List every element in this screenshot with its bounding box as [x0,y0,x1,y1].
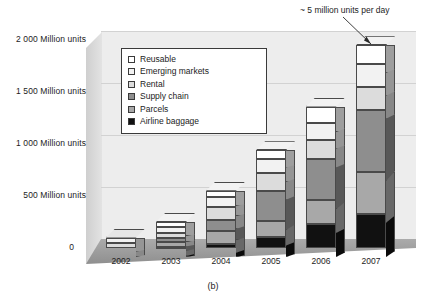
y-axis-tick-0: 0 [0,242,74,252]
legend-item-emerging-markets[interactable]: Emerging markets [128,66,260,79]
figure-caption: (b) [0,281,426,291]
bar-segment-2003-airline-baggage[interactable] [156,247,186,249]
bar-segment-2002-rental[interactable] [106,243,136,248]
bar-segment-2006-reusable[interactable] [306,107,336,124]
bar-segment-2006-rental[interactable] [306,140,336,159]
bar-segment-2003-emerging-markets[interactable] [156,227,186,233]
bar-segment-2006-airline-baggage[interactable] [306,224,336,248]
bar-segment-side-2007-5 [386,45,395,73]
bar-segment-2007-supply-chain[interactable] [356,110,386,172]
bar-segment-side-2005-5 [286,150,295,167]
bar-segment-side-2002-4 [136,238,145,252]
bar-2002[interactable] [106,0,145,299]
bar-top-face-2003 [156,213,195,222]
legend-item-label: Airline baggage [140,117,199,126]
legend-item-supply-chain[interactable]: Supply chain [128,91,260,104]
y-axis-tick-1000: 1 000 Million units [0,138,86,148]
bar-top-face-2002 [106,229,145,238]
legend-item-rental[interactable]: Rental [128,78,260,91]
bar-segment-2002-emerging-markets[interactable] [106,238,136,243]
bar-segment-2005-parcels[interactable] [256,221,286,237]
legend-item-airline-baggage[interactable]: Airline baggage [128,116,260,129]
bar-2004[interactable] [206,0,245,299]
bar-segment-2004-emerging-markets[interactable] [206,197,236,207]
annotation-label: ~ 5 million units per day [300,5,390,15]
bar-segment-2005-supply-chain[interactable] [256,191,286,221]
legend-item-parcels[interactable]: Parcels [128,103,260,116]
legend-item-label: Emerging markets [140,67,209,76]
x-axis-tick-2003: 2003 [147,256,195,266]
bar-segment-2006-parcels[interactable] [306,200,336,224]
x-axis-tick-2006: 2006 [297,256,345,266]
bar-top-face-2004 [206,182,245,191]
x-axis-tick-2007: 2007 [347,256,395,266]
bar-2005[interactable] [256,0,295,299]
y-axis-tick-500: 500 Million units [0,190,86,200]
bar-top-face-2005 [256,141,295,150]
x-axis-tick-2002: 2002 [97,256,145,266]
bar-top-face-2007 [356,36,395,45]
plot-left-wall [86,32,102,264]
legend-swatch-icon [128,106,135,113]
stacked-bar-chart: 2 000 Million units1 500 Million units1 … [0,0,426,299]
legend-swatch-icon [128,118,135,125]
bar-segment-side-2007-2 [386,110,395,181]
bar-segment-2004-airline-baggage[interactable] [206,244,236,248]
x-axis-tick-2005: 2005 [247,256,295,266]
bar-segment-2004-parcels[interactable] [206,231,236,243]
legend-swatch-icon [128,81,135,88]
bar-segment-side-2007-1 [386,172,395,223]
x-axis-tick-2004: 2004 [197,256,245,266]
bar-segment-2003-parcels[interactable] [156,242,186,247]
legend: ReusableEmerging marketsRentalSupply cha… [121,48,267,134]
bar-segment-2007-emerging-markets[interactable] [356,64,386,87]
legend-swatch-icon [128,68,135,75]
bar-segment-2007-rental[interactable] [356,87,386,110]
y-axis-tick-1500: 1 500 Million units [0,86,86,96]
legend-swatch-icon [128,93,135,100]
bar-segment-2005-reusable[interactable] [256,150,286,158]
legend-item-label: Rental [140,80,165,89]
legend-item-label: Reusable [140,55,176,64]
bar-2006[interactable] [306,0,345,299]
bar-segment-side-2006-5 [336,107,345,133]
bar-segment-2005-rental[interactable] [256,173,286,191]
bar-segment-2003-rental[interactable] [156,233,186,237]
bar-segment-2004-rental[interactable] [206,207,236,219]
bar-segment-2005-airline-baggage[interactable] [256,237,286,248]
bar-segment-2006-supply-chain[interactable] [306,159,336,201]
bar-segment-2004-reusable[interactable] [206,191,236,197]
bar-segment-side-2003-5 [186,222,195,236]
legend-item-label: Supply chain [140,92,189,101]
bar-segment-2006-emerging-markets[interactable] [306,123,336,140]
bar-segment-2005-emerging-markets[interactable] [256,159,286,174]
bar-top-face-2006 [306,98,345,107]
bar-segment-2004-supply-chain[interactable] [206,220,236,231]
bar-segment-side-2004-5 [236,191,245,206]
bar-2007[interactable] [356,0,395,299]
legend-rows: ReusableEmerging marketsRentalSupply cha… [128,53,260,128]
legend-item-label: Parcels [140,105,168,114]
legend-swatch-icon [128,56,135,63]
bar-segment-2007-reusable[interactable] [356,45,386,64]
legend-item-reusable[interactable]: Reusable [128,53,260,66]
bar-2003[interactable] [156,0,195,299]
bar-segment-2007-airline-baggage[interactable] [356,214,386,248]
bar-segment-2003-reusable[interactable] [156,222,186,227]
bar-segment-2007-parcels[interactable] [356,172,386,214]
bar-segment-2003-supply-chain[interactable] [156,238,186,242]
y-axis-tick-2000: 2 000 Million units [0,34,86,44]
